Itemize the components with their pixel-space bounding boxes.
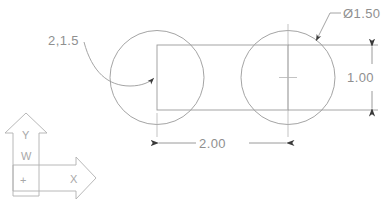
drawing-canvas: Ø1.50 2,1.5 2.00 1.00	[0, 0, 385, 204]
vertical-dimension: 1.00	[288, 45, 378, 110]
x-axis-label: X	[70, 173, 78, 185]
horizontal-dimension: 2.00	[159, 136, 286, 151]
coordinate-leader-line	[84, 42, 154, 86]
diameter-leader: Ø1.50	[316, 6, 380, 41]
horizontal-dimension-label: 2.00	[199, 136, 226, 151]
connecting-rectangle	[157, 45, 288, 110]
diameter-label: Ø1.50	[343, 6, 380, 21]
coordinate-label: 2,1.5	[48, 33, 79, 48]
coordinate-axis-indicator: Y W X +	[5, 113, 96, 199]
coordinate-callout: 2,1.5	[48, 33, 154, 86]
center-marks	[157, 24, 297, 137]
origin-marker: +	[20, 174, 26, 186]
y-axis-label: Y	[22, 129, 30, 141]
vertical-dimension-label: 1.00	[347, 70, 374, 85]
w-axis-label: W	[21, 150, 32, 162]
diameter-leader-line	[316, 13, 330, 41]
technical-drawing-svg: Ø1.50 2,1.5 2.00 1.00	[0, 0, 385, 204]
